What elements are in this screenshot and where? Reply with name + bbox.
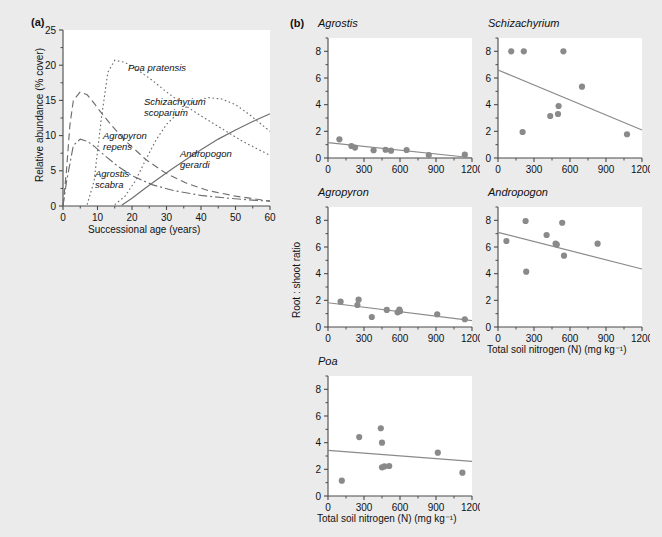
svg-text:0: 0 [325, 164, 331, 175]
curve-label-line1: Schizachyrium [144, 96, 206, 107]
figure-root: (a) Relative abundance (% cover) Success… [0, 0, 662, 537]
svg-text:60: 60 [264, 212, 276, 223]
data-point [378, 425, 384, 431]
subpanel-title-agropyron: Agropyron [318, 186, 369, 198]
data-point [336, 136, 342, 142]
svg-text:8: 8 [485, 46, 491, 57]
svg-text:50: 50 [230, 212, 242, 223]
svg-text:6: 6 [485, 73, 491, 84]
data-point [404, 147, 410, 153]
data-point [371, 147, 377, 153]
svg-text:6: 6 [315, 242, 321, 253]
svg-text:300: 300 [526, 333, 543, 344]
svg-text:900: 900 [428, 333, 445, 344]
subpanel-title-poa: Poa [318, 355, 338, 367]
svg-text:6: 6 [315, 73, 321, 84]
svg-text:40: 40 [195, 212, 207, 223]
data-point [379, 440, 385, 446]
svg-text:0: 0 [325, 333, 331, 344]
svg-text:0: 0 [325, 502, 331, 513]
subpanel-title-schizachyrium: Schizachyrium [488, 17, 560, 29]
data-point [462, 316, 468, 322]
curve-label-line1: Agropyron [103, 130, 147, 141]
data-point [556, 103, 562, 109]
data-point [554, 242, 560, 248]
data-point [544, 232, 550, 238]
svg-text:600: 600 [392, 502, 409, 513]
curve-label-line1: Poa pratensis [128, 62, 186, 73]
svg-text:2: 2 [315, 464, 321, 475]
subpanel-agrostis: 0246803006009001200 [300, 30, 480, 190]
svg-text:600: 600 [562, 333, 579, 344]
curve-label-line2: scabra [95, 179, 124, 190]
data-point [338, 299, 344, 305]
curve-label-line2: repens [103, 141, 132, 152]
svg-text:4: 4 [315, 437, 321, 448]
curve-label-line1: Andropogon [180, 148, 232, 159]
curve-label-line2: gerardi [180, 159, 210, 170]
curve-label-line2: scoparium [144, 107, 188, 118]
data-point [521, 48, 527, 54]
data-point [462, 152, 468, 158]
data-point [426, 152, 432, 158]
svg-text:2: 2 [485, 126, 491, 137]
svg-text:300: 300 [356, 502, 373, 513]
svg-text:900: 900 [598, 333, 615, 344]
data-point [388, 148, 394, 154]
svg-text:30: 30 [161, 212, 173, 223]
data-point [520, 129, 526, 135]
data-point [397, 308, 403, 314]
svg-text:8: 8 [315, 384, 321, 395]
svg-text:0: 0 [315, 491, 321, 502]
svg-text:0: 0 [60, 212, 66, 223]
svg-text:6: 6 [315, 411, 321, 422]
data-point [579, 84, 585, 90]
data-point [624, 131, 630, 137]
svg-text:900: 900 [428, 502, 445, 513]
svg-text:1200: 1200 [631, 333, 650, 344]
data-point [434, 311, 440, 317]
svg-text:2: 2 [315, 295, 321, 306]
panel-b-xlabel-poa: Total soil nitrogen (N) (mg kg⁻¹) [317, 513, 456, 524]
svg-text:5: 5 [50, 165, 56, 176]
svg-text:8: 8 [485, 215, 491, 226]
svg-text:0: 0 [485, 153, 491, 164]
data-point [356, 297, 362, 303]
curve-label-agropyron-repens: Agropyron repens [103, 130, 147, 152]
data-point [383, 147, 389, 153]
svg-text:6: 6 [485, 242, 491, 253]
subpanel-title-andropogon: Andropogon [488, 186, 548, 198]
svg-text:1200: 1200 [631, 164, 650, 175]
svg-text:1200: 1200 [461, 502, 480, 513]
data-point [503, 238, 509, 244]
data-point [384, 307, 390, 313]
svg-text:900: 900 [428, 164, 445, 175]
data-point [555, 111, 561, 117]
svg-text:4: 4 [485, 268, 491, 279]
data-point [559, 220, 565, 226]
subpanel-schizachyrium: 0246803006009001200 [470, 30, 650, 190]
svg-text:20: 20 [126, 212, 138, 223]
svg-text:0: 0 [485, 322, 491, 333]
svg-text:0: 0 [495, 333, 501, 344]
svg-text:0: 0 [50, 201, 56, 212]
svg-text:300: 300 [356, 333, 373, 344]
curve-label-schizachyrium-scoparium: Schizachyrium scoparium [144, 96, 206, 118]
svg-text:0: 0 [315, 153, 321, 164]
svg-text:10: 10 [45, 130, 57, 141]
subpanel-agropyron: 0246803006009001200 [300, 199, 480, 359]
curve-label-line1: Agrostis [95, 168, 129, 179]
svg-text:300: 300 [526, 164, 543, 175]
subpanel-title-agrostis: Agrostis [318, 17, 358, 29]
svg-text:10: 10 [92, 212, 104, 223]
data-point [508, 48, 514, 54]
svg-text:15: 15 [45, 95, 57, 106]
data-point [435, 450, 441, 456]
data-point [339, 478, 345, 484]
svg-text:600: 600 [392, 333, 409, 344]
subpanel-poa: 0246803006009001200 [300, 368, 480, 528]
data-point [547, 113, 553, 119]
data-point [523, 218, 529, 224]
svg-text:2: 2 [485, 295, 491, 306]
subpanel-andropogon: 0246803006009001200 [470, 199, 650, 359]
